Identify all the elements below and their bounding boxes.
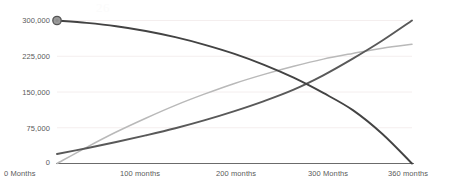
y-axis-tick-label: 0 [6, 158, 50, 167]
x-axis-tick-label: 100 months [120, 169, 160, 178]
y-axis-tick-label: 75,000 [6, 124, 50, 133]
x-axis-tick-label: 300 Months [308, 169, 348, 178]
start-marker-group [53, 16, 61, 24]
series-line-accelerating-growth [57, 21, 412, 154]
x-axis-tick-label: 0 Months [4, 169, 36, 178]
y-axis-tick-label: 300,000 [6, 16, 50, 25]
series-accelerating-growth [57, 21, 412, 154]
y-axis-tick-label: 150,000 [6, 88, 50, 97]
series-start-marker-inner-icon [55, 19, 58, 22]
x-axis-tick-label: 360 months [388, 169, 428, 178]
line-chart: 26 300,000 225,000 150,000 75,000 0 0 Mo… [0, 0, 455, 187]
x-axis-tick-label: 200 months [216, 169, 256, 178]
series-line-plateauing-growth [57, 44, 412, 163]
y-axis-tick-label: 225,000 [6, 52, 50, 61]
series-plateauing-growth [57, 44, 412, 163]
chart-canvas [0, 0, 455, 187]
